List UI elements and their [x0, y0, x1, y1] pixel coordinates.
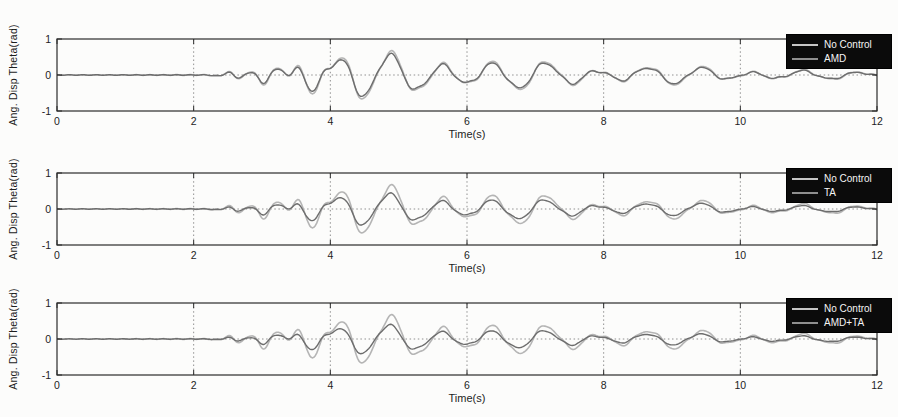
- x-tick-label: 2: [191, 249, 197, 261]
- no-control-line-swatch: [792, 308, 818, 310]
- legend-amd-ta: No Control AMD+TA: [786, 298, 892, 333]
- legend-entry: AMD+TA: [792, 317, 886, 328]
- x-tick-label: 12: [871, 249, 883, 261]
- x-tick-label: 0: [54, 249, 60, 261]
- y-axis-label: Ang. Disp Theta(rad): [7, 134, 21, 284]
- x-tick-label: 4: [327, 249, 333, 261]
- x-tick-label: 12: [871, 379, 883, 391]
- legend-entry: No Control: [792, 303, 886, 314]
- x-tick-label: 0: [54, 379, 60, 391]
- amd-line-swatch: [792, 58, 818, 60]
- amd-ta-line-swatch: [792, 322, 818, 324]
- y-tick-label: 1: [45, 167, 51, 179]
- legend-entry: TA: [792, 187, 886, 198]
- y-axis-label: Ang. Disp Theta(rad): [7, 0, 21, 150]
- x-tick-label: 10: [734, 249, 746, 261]
- y-tick-label: 0: [45, 69, 51, 81]
- chart-canvas-amd: 024681012-101: [0, 36, 898, 140]
- legend-label: No Control: [824, 39, 872, 50]
- x-tick-label: 10: [734, 379, 746, 391]
- subplot-amd: 024681012-101 Ang. Disp Theta(rad) Time(…: [0, 36, 898, 156]
- x-axis-label: Time(s): [57, 392, 877, 404]
- chart-canvas-ta: 024681012-101: [0, 170, 898, 274]
- legend-label: No Control: [824, 173, 872, 184]
- no-control-line-swatch: [792, 44, 818, 46]
- x-tick-label: 6: [464, 249, 470, 261]
- x-tick-label: 6: [464, 115, 470, 127]
- x-tick-label: 4: [327, 379, 333, 391]
- x-tick-label: 8: [601, 379, 607, 391]
- x-tick-label: 8: [601, 249, 607, 261]
- subplot-ta: 024681012-101 Ang. Disp Theta(rad) Time(…: [0, 170, 898, 290]
- no-control-line-swatch: [792, 178, 818, 180]
- y-tick-label: 1: [45, 33, 51, 45]
- x-tick-label: 4: [327, 115, 333, 127]
- y-tick-label: -1: [42, 369, 51, 381]
- ta-line-swatch: [792, 192, 818, 194]
- legend-amd: No Control AMD: [786, 34, 892, 69]
- y-tick-label: 0: [45, 203, 51, 215]
- x-tick-label: 6: [464, 379, 470, 391]
- y-tick-label: -1: [42, 239, 51, 251]
- legend-entry: No Control: [792, 173, 886, 184]
- legend-entry: AMD: [792, 53, 886, 64]
- x-tick-label: 10: [734, 115, 746, 127]
- x-axis-label: Time(s): [57, 128, 877, 140]
- y-tick-label: -1: [42, 105, 51, 117]
- x-tick-label: 8: [601, 115, 607, 127]
- figure-canvas: 024681012-101 Ang. Disp Theta(rad) Time(…: [0, 0, 898, 417]
- y-axis-label: Ang. Disp Theta(rad): [7, 264, 21, 414]
- x-tick-label: 2: [191, 115, 197, 127]
- x-axis-label: Time(s): [57, 262, 877, 274]
- legend-entry: No Control: [792, 39, 886, 50]
- subplot-amd-ta: 024681012-101 Ang. Disp Theta(rad) Time(…: [0, 300, 898, 417]
- x-tick-label: 12: [871, 115, 883, 127]
- x-tick-label: 0: [54, 115, 60, 127]
- legend-label: TA: [824, 187, 836, 198]
- legend-label: AMD+TA: [824, 317, 864, 328]
- y-tick-label: 0: [45, 333, 51, 345]
- legend-label: AMD: [824, 53, 846, 64]
- y-tick-label: 1: [45, 297, 51, 309]
- chart-canvas-amd-ta: 024681012-101: [0, 300, 898, 404]
- legend-ta: No Control TA: [786, 168, 892, 203]
- legend-label: No Control: [824, 303, 872, 314]
- x-tick-label: 2: [191, 379, 197, 391]
